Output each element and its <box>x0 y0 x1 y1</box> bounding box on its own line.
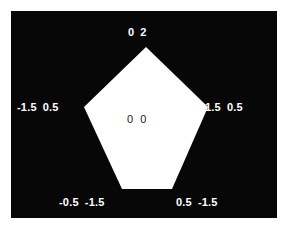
vertex-bottom-left-y: -1.5 <box>85 197 105 208</box>
vertex-top-y: 2 <box>140 27 146 38</box>
vertex-bottom-right-y: -1.5 <box>198 197 218 208</box>
plot-area: 02 -1.50.5 1.50.5 -0.5-1.5 0.5-1.5 00 <box>11 11 277 218</box>
vertex-top-x: 0 <box>128 27 134 38</box>
center-y: 0 <box>140 114 146 125</box>
vertex-bottom-right-x: 0.5 <box>176 197 192 208</box>
vertex-bottom-left-x: -0.5 <box>59 197 79 208</box>
vertex-label-right: 1.50.5 <box>205 102 243 113</box>
vertex-label-bottom-left: -0.5-1.5 <box>59 197 105 208</box>
center-label: 00 <box>127 114 147 125</box>
figure-container: 02 -1.50.5 1.50.5 -0.5-1.5 0.5-1.5 00 <box>0 0 287 230</box>
center-x: 0 <box>127 114 133 125</box>
vertex-label-top: 02 <box>128 27 147 38</box>
vertex-left-x: -1.5 <box>17 102 37 113</box>
vertex-left-y: 0.5 <box>43 102 59 113</box>
vertex-label-bottom-right: 0.5-1.5 <box>176 197 218 208</box>
vertex-right-x: 1.5 <box>205 102 221 113</box>
vertex-right-y: 0.5 <box>227 102 243 113</box>
vertex-label-left: -1.50.5 <box>17 102 59 113</box>
